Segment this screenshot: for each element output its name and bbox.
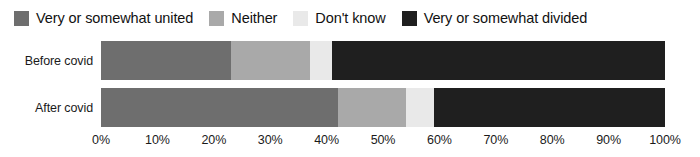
axis-tick-label: 30%	[258, 132, 283, 148]
stacked-bar-before-covid	[101, 41, 665, 80]
axis-tick-label: 10%	[145, 132, 170, 148]
bar-segment	[310, 41, 333, 80]
axis-tick-label: 40%	[314, 132, 339, 148]
bar-segment	[406, 88, 434, 127]
legend-item[interactable]: Very or somewhat united	[14, 10, 193, 26]
bar-segment	[434, 88, 665, 127]
legend-swatch-icon	[293, 11, 308, 26]
legend-label: Very or somewhat divided	[424, 10, 588, 26]
legend-item[interactable]: Don't know	[293, 10, 385, 26]
chart-row-after-covid: After covid	[0, 88, 700, 127]
bar-segment	[338, 88, 406, 127]
bar-segment	[332, 41, 665, 80]
axis-tick-label: 60%	[427, 132, 452, 148]
axis-tick-label: 80%	[540, 132, 565, 148]
axis-tick-label: 50%	[371, 132, 396, 148]
axis-tick-label: 20%	[201, 132, 226, 148]
axis-tick-label: 100%	[649, 132, 681, 148]
legend-item[interactable]: Neither	[209, 10, 277, 26]
legend-swatch-icon	[209, 11, 224, 26]
legend-label: Neither	[231, 10, 277, 26]
legend-swatch-icon	[14, 11, 29, 26]
row-label-before-covid: Before covid	[0, 54, 93, 68]
bar-segment	[101, 88, 338, 127]
chart-legend: Very or somewhat unitedNeitherDon't know…	[14, 6, 690, 30]
legend-label: Don't know	[315, 10, 385, 26]
bar-segment	[231, 41, 310, 80]
row-label-after-covid: After covid	[0, 101, 93, 115]
axis-tick-label: 0%	[92, 132, 110, 148]
x-axis: 0%10%20%30%40%50%60%70%80%90%100%	[101, 132, 665, 154]
legend-label: Very or somewhat united	[36, 10, 193, 26]
stacked-bar-chart: Very or somewhat unitedNeitherDon't know…	[0, 0, 700, 157]
plot-area: Before covid After covid 0%10%20%30%40%5…	[0, 36, 700, 157]
axis-tick-label: 70%	[483, 132, 508, 148]
bar-segment	[101, 41, 231, 80]
chart-row-before-covid: Before covid	[0, 41, 700, 80]
legend-item[interactable]: Very or somewhat divided	[402, 10, 588, 26]
legend-swatch-icon	[402, 11, 417, 26]
stacked-bar-after-covid	[101, 88, 665, 127]
axis-tick-label: 90%	[596, 132, 621, 148]
